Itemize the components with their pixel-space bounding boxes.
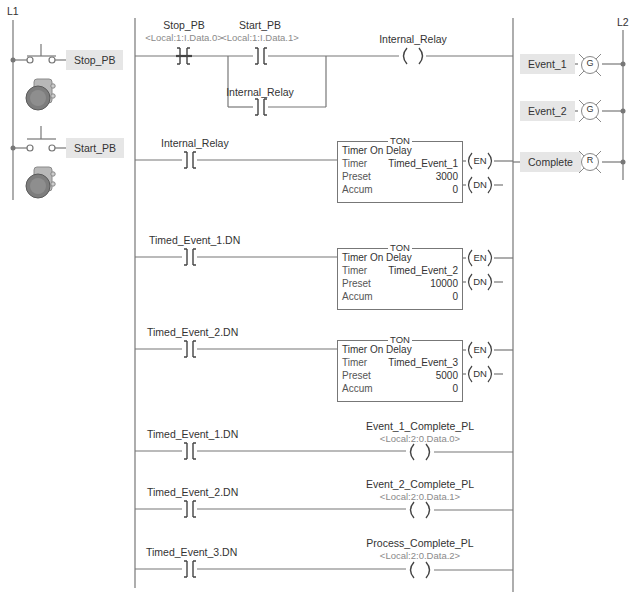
timer-value: Timed_Event_1 — [388, 158, 458, 169]
field-tag-complete: Complete — [520, 152, 581, 172]
pilot-light-letter: R — [576, 155, 604, 165]
field-tag-stop-pb: Stop_PB — [66, 50, 123, 70]
xic-contact-icon[interactable] — [180, 247, 200, 267]
xic-contact-icon[interactable] — [251, 46, 271, 66]
rail-l1-label: L1 — [7, 5, 19, 17]
ton-subtitle: Timer On Delay — [342, 252, 458, 263]
xic-contact-icon[interactable] — [180, 441, 200, 461]
ton-subtitle: Timer On Delay — [342, 145, 458, 156]
contact-tag: Stop_PB — [163, 19, 204, 31]
pilot-light-red-icon: R — [576, 149, 604, 175]
ton-subtitle: Timer On Delay — [342, 344, 458, 355]
ton-timer-block[interactable]: TON Timer On Delay TimerTimed_Event_3 Pr… — [337, 340, 463, 402]
coil-tag: Process_Complete_PL — [366, 537, 473, 549]
xic-contact-icon[interactable] — [180, 339, 200, 359]
xic-contact-icon[interactable] — [180, 559, 200, 579]
contact-tag: Internal_Relay — [161, 137, 229, 149]
accum-value: 0 — [452, 184, 458, 195]
ton-timer-block[interactable]: TON Timer On Delay TimerTimed_Event_1 Pr… — [337, 141, 463, 203]
timer-value: Timed_Event_3 — [388, 357, 458, 368]
wiring-layer — [0, 0, 641, 606]
preset-value: 10000 — [430, 278, 458, 289]
preset-label: Preset — [342, 278, 371, 289]
preset-value: 5000 — [436, 370, 458, 381]
contact-tag: Timed_Event_1.DN — [147, 428, 238, 440]
xic-contact-icon[interactable] — [251, 97, 271, 117]
preset-label: Preset — [342, 171, 371, 182]
field-tag-start-pb: Start_PB — [66, 138, 124, 158]
contact-address: <Local:1:I.Data.0> — [145, 32, 223, 43]
accum-value: 0 — [452, 291, 458, 302]
accum-label: Accum — [342, 184, 373, 195]
field-tag-event-1: Event_1 — [520, 54, 575, 74]
xio-contact-icon[interactable] — [174, 46, 194, 66]
stop-pushbutton-image-icon — [24, 76, 58, 114]
pilot-light-green-icon: G — [576, 52, 604, 78]
contact-tag: Start_PB — [239, 19, 281, 31]
field-tag-event-2: Event_2 — [520, 101, 575, 121]
accum-label: Accum — [342, 383, 373, 394]
ton-timer-block[interactable]: TON Timer On Delay TimerTimed_Event_2 Pr… — [337, 248, 463, 310]
contact-tag: Timed_Event_2.DN — [147, 326, 238, 338]
output-coil-icon[interactable] — [399, 46, 427, 66]
en-coil-icon: EN — [464, 340, 496, 360]
pilot-light-letter: G — [576, 58, 604, 68]
rail-l2-label: L2 — [617, 16, 629, 28]
output-coil-icon[interactable] — [406, 500, 434, 520]
contact-address: <Local:1:I.Data.1> — [221, 32, 299, 43]
xic-contact-icon[interactable] — [180, 499, 200, 519]
timer-label: Timer — [342, 265, 367, 276]
timer-value: Timed_Event_2 — [388, 265, 458, 276]
dn-coil-icon: DN — [464, 272, 496, 292]
pilot-light-letter: G — [576, 104, 604, 114]
coil-tag: Event_1_Complete_PL — [366, 420, 474, 432]
xic-contact-icon[interactable] — [180, 150, 200, 170]
coil-tag: Internal_Relay — [379, 33, 447, 45]
coil-tag: Event_2_Complete_PL — [366, 478, 474, 490]
start-pushbutton-image-icon — [24, 164, 58, 202]
en-coil-icon: EN — [464, 151, 496, 171]
preset-value: 3000 — [436, 171, 458, 182]
contact-tag: Timed_Event_3.DN — [146, 546, 237, 558]
output-coil-icon[interactable] — [406, 442, 434, 462]
contact-tag: Timed_Event_2.DN — [147, 486, 238, 498]
pilot-light-green-icon: G — [576, 98, 604, 124]
accum-label: Accum — [342, 291, 373, 302]
dn-coil-icon: DN — [464, 175, 496, 195]
timer-label: Timer — [342, 357, 367, 368]
en-coil-icon: EN — [464, 248, 496, 268]
contact-tag: Timed_Event_1.DN — [149, 234, 240, 246]
timer-label: Timer — [342, 158, 367, 169]
dn-coil-icon: DN — [464, 364, 496, 384]
preset-label: Preset — [342, 370, 371, 381]
output-coil-icon[interactable] — [406, 560, 434, 580]
accum-value: 0 — [452, 383, 458, 394]
